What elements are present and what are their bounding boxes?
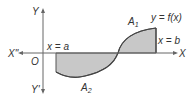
y-axis-arrow-top — [41, 8, 45, 13]
origin-label: O — [31, 56, 39, 67]
a2-label: A2 — [80, 82, 92, 94]
y-axis-label: Y — [32, 6, 40, 17]
x-equals-a-label: x = a — [46, 41, 69, 52]
y-axis-arrow-bottom — [41, 89, 45, 94]
x-axis-arrow-left — [18, 51, 23, 55]
x-equals-b-label: x = b — [157, 35, 180, 46]
a1-label: A1 — [127, 16, 139, 28]
x-double-prime-label: X" — [7, 48, 19, 59]
area-diagram: Y Y' X" X O x = a x = b y = f(x) A1 A2 — [0, 0, 189, 98]
x-axis-arrow-right — [173, 51, 178, 55]
region-a1 — [118, 28, 156, 53]
curve-label: y = f(x) — [150, 12, 182, 23]
x-axis-label: X — [178, 48, 186, 59]
y-prime-label: Y' — [31, 84, 41, 95]
